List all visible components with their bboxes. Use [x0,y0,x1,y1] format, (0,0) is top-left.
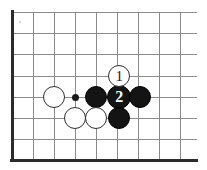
stone-move-number: 1 [116,69,123,84]
grid-line-horizontal-2 [12,54,197,55]
star-point-0 [72,94,79,101]
stone-move-number: 2 [115,89,123,105]
stone-white [85,107,107,129]
stone-black [108,107,130,129]
scan-speck [19,21,21,23]
stone-white-move-1: 1 [108,65,130,87]
stone-black [85,86,107,108]
grid-line-vertical-8 [180,12,181,159]
grid-line-horizontal-6 [12,139,197,140]
grid-line-horizontal-3 [12,76,197,77]
board-edge-left [11,10,14,161]
grid-line-vertical-1 [33,12,34,159]
go-board-diagram: 21 [0,0,207,170]
grid-line-horizontal-0 [12,12,197,13]
grid-line-vertical-7 [159,12,160,159]
stone-white [43,86,65,108]
stone-white [64,107,86,129]
stone-black-move-2: 2 [107,85,131,109]
grid-line-vertical-3 [75,12,76,159]
board-edge-bottom [10,159,198,162]
stone-black [129,86,151,108]
grid-line-horizontal-1 [12,33,197,34]
